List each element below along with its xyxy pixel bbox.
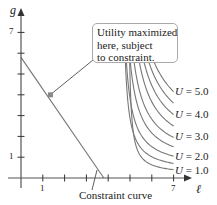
u-label-1: U = 1.0: [175, 165, 208, 176]
u-var: U: [175, 150, 183, 162]
u-var: U: [175, 164, 183, 176]
constraint-line: [21, 57, 104, 178]
u-label-4: U = 4.0: [175, 109, 208, 120]
u-var: U: [175, 85, 183, 97]
u-var: U: [175, 108, 183, 120]
u-label-5: U = 5.0: [175, 86, 208, 97]
callout-line-1: Utility maximized: [97, 26, 173, 39]
u-label-3: U = 3.0: [175, 131, 208, 142]
constraint-curve-label: Constraint curve: [79, 190, 152, 201]
u-value: = 5.0: [183, 85, 208, 97]
callout-line-2: here, subject: [97, 39, 173, 52]
y-axis-arrow-icon: [18, 8, 25, 16]
optimum-marker: [48, 92, 53, 97]
x-axis-label: ℓ: [196, 183, 201, 195]
u-value: = 4.0: [183, 108, 208, 120]
u-value: = 2.0: [183, 150, 208, 162]
x-tick-label-1: 1: [40, 184, 45, 193]
callout-line-3: to constraint.: [97, 51, 173, 64]
callout-pointer: [50, 60, 93, 95]
callout-box: Utility maximized here, subject to const…: [92, 23, 178, 63]
u-value: = 1.0: [183, 164, 208, 176]
y-tick-label-7: 7: [9, 27, 14, 36]
constraint-label-pointer: [92, 170, 97, 190]
u-value: = 3.0: [183, 130, 208, 142]
u-var: U: [175, 130, 183, 142]
u-label-2: U = 2.0: [175, 151, 208, 162]
y-tick-label-1: 1: [9, 152, 14, 161]
y-axis-label: g: [10, 4, 16, 16]
x-tick-label-7: 7: [171, 184, 176, 193]
